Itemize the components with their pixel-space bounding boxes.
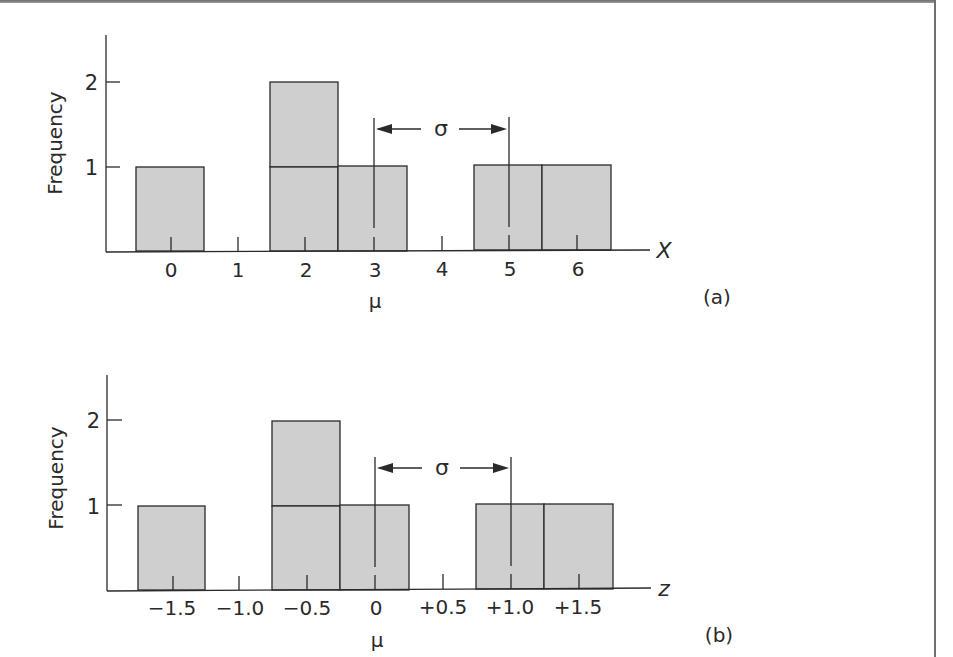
bar-x0 xyxy=(136,167,204,251)
y-tick-label-2: 2 xyxy=(85,71,98,95)
bar-z-0.5-upper xyxy=(272,421,340,506)
y-tick-label-1: 1 xyxy=(87,495,100,519)
y-axis-label-b: Frequency xyxy=(44,426,68,529)
x-tick-label: +0.5 xyxy=(419,595,468,619)
bar-x2-upper xyxy=(270,82,338,167)
x-tick-label: 0 xyxy=(370,596,383,620)
panel-label-a: (a) xyxy=(703,285,731,309)
mean-label-a: μ xyxy=(369,289,382,313)
sigma-label-a: σ xyxy=(434,116,448,141)
x-axis-label-a: X xyxy=(655,238,672,263)
histogram-b: 2 1 Frequency −1.5 −1.0 −0.5 0 +0.5 +1.0… xyxy=(0,330,935,657)
bar-x5 xyxy=(474,165,542,250)
x-tick-labels-b: −1.5 −1.0 −0.5 0 +0.5 +1.0 +1.5 xyxy=(148,595,603,620)
y-axis-label-a: Frequency xyxy=(43,91,67,194)
bar-z-0.5-lower xyxy=(272,506,340,590)
x-tick-label: 3 xyxy=(369,258,382,282)
x-tick-label: +1.0 xyxy=(486,595,535,619)
mean-label-b: μ xyxy=(371,628,384,652)
x-tick-labels-a: 0 1 2 3 4 5 6 xyxy=(165,257,585,282)
bar-x2-lower xyxy=(270,167,338,251)
x-tick-label: +1.5 xyxy=(554,595,603,619)
bar-x3 xyxy=(338,166,407,251)
x-tick-label: 6 xyxy=(572,257,585,281)
x-tick-label: 1 xyxy=(232,258,245,282)
x-tick-label: 2 xyxy=(300,258,313,282)
x-tick-label: −0.5 xyxy=(283,596,332,620)
x-tick-label: −1.0 xyxy=(216,596,265,620)
panel-a: 2 1 Frequency 0 1 2 3 4 5 6 X σ μ (a) xyxy=(0,0,935,330)
x-tick-label: 4 xyxy=(436,257,449,281)
bar-z-1.5 xyxy=(138,506,205,590)
x-tick-label: 5 xyxy=(504,257,517,281)
y-tick-label-2: 2 xyxy=(87,409,100,433)
y-tick-label-1: 1 xyxy=(85,156,98,180)
x-tick-label: −1.5 xyxy=(148,596,197,620)
panel-label-b: (b) xyxy=(705,623,733,647)
x-axis-label-b: z xyxy=(657,576,670,601)
x-tick-label: 0 xyxy=(165,258,178,282)
histogram-a: 2 1 Frequency 0 1 2 3 4 5 6 X σ μ (a) xyxy=(0,0,935,330)
sigma-label-b: σ xyxy=(435,455,449,480)
panel-b: 2 1 Frequency −1.5 −1.0 −0.5 0 +0.5 +1.0… xyxy=(0,330,935,657)
bar-z+1.0 xyxy=(476,504,544,589)
